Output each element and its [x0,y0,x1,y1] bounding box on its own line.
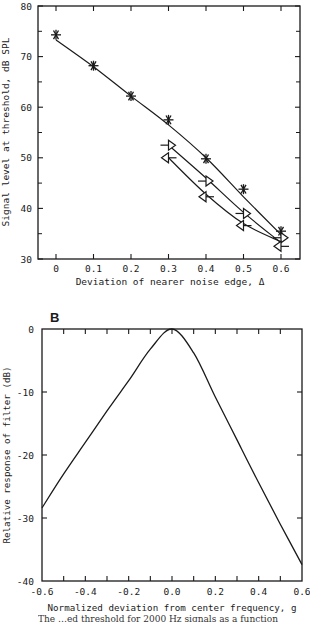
panel-b-frame [42,329,302,581]
x-tick-label: -0.2 [117,586,140,597]
triangle-left-marker-icon [199,192,214,202]
x-tick-label: -0.4 [74,586,97,597]
panel-a-threshold-chart: 00.10.20.30.40.50.6304050607080 Deviatio… [0,1,300,288]
y-tick-label: 30 [21,254,33,265]
panel-a-ticks: 00.10.20.30.40.50.6304050607080 [21,1,300,275]
x-tick-label: 0.1 [85,263,102,274]
x-tick-label: 0.4 [197,263,214,274]
y-tick-label: 60 [21,102,33,113]
panel-b-y-axis-label: Relative response of filter (dB) [1,366,12,543]
fit-curve [56,40,281,235]
y-tick-label: 80 [21,1,33,12]
panel-a-frame [38,6,300,259]
panel-b-label: B [50,310,59,325]
asterisk-marker-icon [164,115,174,125]
x-tick-label: 0.3 [160,263,177,274]
figure-caption-partial: The …ed threshold for 2000 Hz signals as… [38,612,308,622]
asterisk-marker-icon [126,91,136,101]
triangle-left-marker-icon [237,221,252,231]
triangle-left-marker-icon [274,241,289,251]
panel-b-filter-chart: B -0.6-0.4-0.20.00.20.40.6-40-30-20-100 … [1,310,310,613]
x-tick-label: 0.5 [235,263,252,274]
panel-b-filter-curve [42,329,302,565]
y-tick-label: 40 [21,203,33,214]
asterisk-marker-icon [201,154,211,164]
y-tick-label: 0 [28,324,34,335]
x-tick-label: 0 [53,263,59,274]
y-tick-label: 50 [21,152,33,163]
triangle-right-marker-icon [198,176,213,186]
y-tick-label: 70 [21,51,33,62]
fit-curve [169,145,282,243]
x-tick-label: -0.6 [31,586,54,597]
x-tick-label: 0.0 [163,586,180,597]
x-tick-label: 0.4 [250,586,267,597]
panel-b-ticks: -0.6-0.4-0.20.00.20.40.6-40-30-20-100 [17,324,310,598]
x-tick-label: 0.2 [122,263,139,274]
panel-a-y-axis-label: Signal level at threshold, dB SPL [0,37,11,226]
y-tick-label: -20 [17,450,34,461]
x-tick-label: 0.2 [207,586,224,597]
triangle-left-marker-icon [162,153,177,163]
x-tick-label: 0.6 [272,263,289,274]
filter-response-curve [42,329,302,565]
y-tick-label: -30 [17,513,34,524]
x-tick-label: 0.6 [293,586,310,597]
panel-a-data-markers [51,30,289,252]
y-tick-label: -10 [17,387,34,398]
y-tick-label: -40 [17,576,34,587]
panel-a-x-axis-label: Deviation of nearer noise edge, Δ [76,276,265,287]
figure: 00.10.20.30.40.50.6304050607080 Deviatio… [0,0,310,622]
asterisk-marker-icon [51,30,61,40]
